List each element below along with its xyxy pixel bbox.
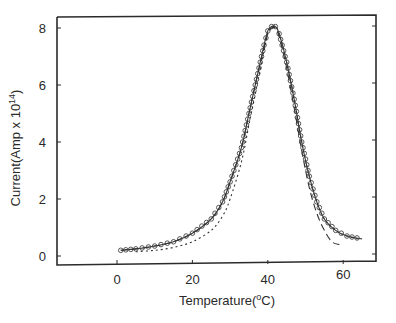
x-axis-title: Temperature(oC) — [179, 292, 275, 308]
x-tick-label: 20 — [185, 272, 199, 287]
x-tick-label: 60 — [336, 267, 350, 282]
series-experimental — [121, 26, 362, 250]
y-tick-label: 2 — [39, 192, 46, 207]
y-tick-label: 0 — [39, 249, 46, 264]
series-fit-dashed — [121, 27, 340, 250]
y-tick-label: 6 — [39, 78, 46, 93]
x-tick-label: 0 — [113, 272, 120, 287]
y-tick-label: 4 — [39, 135, 46, 150]
y-axis-ticks: 02468 — [39, 21, 376, 264]
plot-frame — [57, 15, 376, 265]
series-fit-dotted — [136, 26, 358, 251]
data-series — [118, 24, 362, 252]
y-tick-label: 8 — [39, 21, 46, 36]
temperature-current-chart: 02468 0204060 Current(Amp x 1014) Temper… — [0, 0, 396, 323]
y-axis-title: Current(Amp x 1014) — [7, 90, 23, 207]
x-tick-label: 40 — [261, 272, 275, 287]
